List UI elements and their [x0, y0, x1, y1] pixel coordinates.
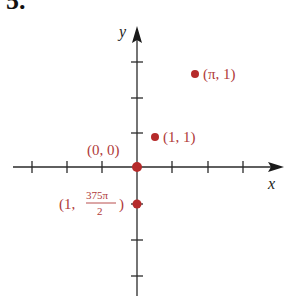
point-label: (0, 0) — [87, 142, 120, 159]
point-marker-icon — [133, 200, 142, 209]
y-axis-label: y — [117, 23, 127, 41]
point-marker-icon — [191, 70, 199, 78]
point-1-375pi-over-2: (1, 375π 2 ) — [59, 189, 142, 217]
point-label: (π, 1) — [203, 66, 236, 83]
polar-points-diagram: x y (0, 0) (1, 1) (π, 1) (1, 375π 2 ) — [0, 0, 295, 308]
x-axis: x — [13, 161, 284, 192]
point-label: (1, 1) — [163, 129, 196, 146]
x-axis-label: x — [267, 175, 275, 192]
point-label-denominator: 2 — [97, 205, 103, 217]
point-marker-icon — [151, 133, 159, 141]
point-label-numerator: 375π — [86, 189, 109, 201]
point-pi-1: (π, 1) — [191, 66, 236, 83]
y-axis: y — [117, 23, 143, 296]
point-marker-icon — [132, 162, 142, 172]
point-1-1: (1, 1) — [151, 129, 196, 146]
point-label-prefix: (1, — [59, 196, 75, 213]
point-label-suffix: ) — [119, 196, 124, 213]
